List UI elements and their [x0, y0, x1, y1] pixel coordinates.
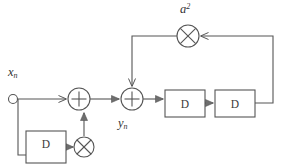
wire-input-branch-down — [18, 99, 26, 155]
coefficient-label: a2 — [180, 3, 190, 16]
delay-block-lower-label: D — [31, 139, 61, 151]
wire-mult-to-adder2 — [132, 36, 177, 86]
delay-block-2-label: D — [220, 99, 250, 111]
output-signal-label: yn — [118, 117, 128, 131]
multiplier-lower — [74, 137, 94, 157]
input-signal-label: xn — [8, 66, 18, 80]
signal-flow-diagram: xn yn a2 D D D — [0, 0, 302, 165]
multiplier-upper — [177, 25, 199, 47]
input-node — [9, 95, 18, 104]
adder-2 — [121, 88, 143, 110]
delay-block-1-label: D — [170, 99, 200, 111]
adder-1 — [68, 88, 90, 110]
